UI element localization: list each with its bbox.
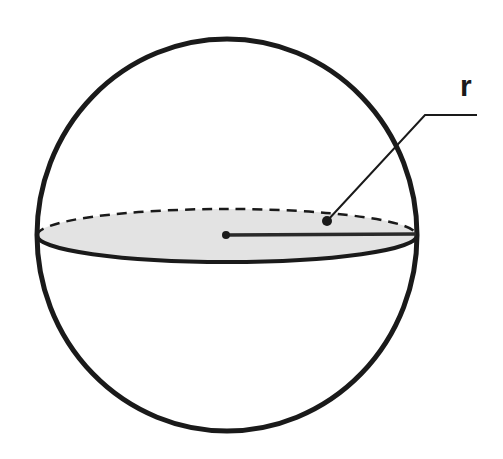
- leader-line: [327, 115, 477, 221]
- leader-point: [322, 216, 332, 226]
- radius-label: r: [460, 69, 472, 102]
- radius-line: [226, 234, 416, 235]
- center-point: [222, 231, 230, 239]
- sphere-diagram: r: [0, 0, 503, 459]
